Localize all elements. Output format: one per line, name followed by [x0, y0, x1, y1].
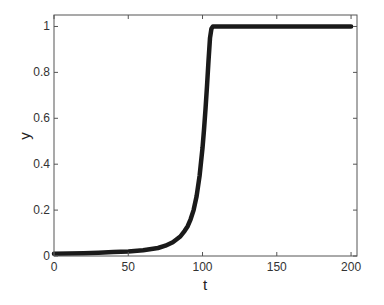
x-tick-label: 150 — [267, 260, 287, 274]
y-axis-label: y — [16, 132, 33, 140]
x-tick-label: 200 — [341, 260, 361, 274]
y-tick-label: 0.8 — [33, 65, 50, 79]
x-tick-label: 0 — [51, 260, 58, 274]
y-tick-label: 0.6 — [33, 111, 50, 125]
x-tick-label: 50 — [122, 260, 136, 274]
y-tick-label: 0 — [43, 249, 50, 263]
y-tick-label: 1 — [43, 19, 50, 33]
x-axis-label: t — [203, 276, 208, 293]
x-tick-label: 100 — [193, 260, 213, 274]
y-tick-label: 0.2 — [33, 203, 50, 217]
y-tick-label: 0.4 — [33, 157, 50, 171]
chart: 050100150200 00.20.40.60.81 t y — [0, 0, 384, 305]
